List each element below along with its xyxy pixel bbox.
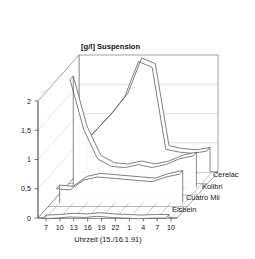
x-tick-label-0: 7 (44, 223, 48, 232)
x-tick-label-9: 10 (167, 223, 175, 232)
x-tick-label-4: 19 (98, 223, 106, 232)
y-tick-label-2: 1 (27, 155, 31, 164)
x-axis-title: Uhrzeit (15./16.1.91) (74, 235, 141, 244)
x-tick-label-7: 4 (141, 223, 145, 232)
y-tick-label-1: 0,5 (21, 184, 31, 193)
x-tick-label-2: 13 (70, 223, 78, 232)
x-tick-label-8: 7 (155, 223, 159, 232)
x-tick-label-1: 10 (56, 223, 64, 232)
y-tick-label-3: 1,5 (21, 126, 31, 135)
x-tick-label-6: 1 (127, 223, 131, 232)
x-tick-label-3: 16 (84, 223, 92, 232)
chart-container: 0 0,5 1 1,5 2 7 10 13 16 (0, 0, 255, 259)
y-tick-label-4: 2 (27, 97, 31, 106)
series-label-eisbein: Eisbein (172, 205, 196, 214)
series-label-kolibri: Kolibri (202, 182, 223, 191)
y-tick-label-0: 0 (27, 214, 31, 223)
suspension-3d-ribbon-chart: 0 0,5 1 1,5 2 7 10 13 16 (0, 0, 255, 259)
series-label-cerelac: Cerelac (213, 170, 239, 179)
chart-title: [g/l] Suspension (81, 42, 140, 51)
x-tick-label-5: 22 (111, 223, 119, 232)
series-label-cuatro-mil: Cuatro Mil (186, 193, 220, 202)
